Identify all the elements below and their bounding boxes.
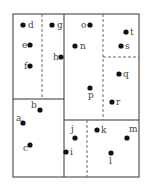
- point-m: m: [124, 124, 138, 141]
- point-marker: [116, 71, 121, 76]
- partition-diagram: abcdefghijklmnopqrst: [0, 0, 152, 193]
- point-s: s: [118, 41, 130, 51]
- point-d: d: [20, 20, 34, 30]
- point-n: n: [72, 41, 86, 51]
- point-label: e: [22, 40, 27, 50]
- point-label: s: [125, 41, 130, 51]
- point-marker: [87, 22, 92, 27]
- point-label: q: [123, 69, 129, 79]
- point-label: h: [53, 52, 59, 62]
- point-b: b: [31, 100, 43, 113]
- point-r: r: [109, 97, 121, 107]
- point-o: o: [81, 20, 93, 30]
- point-marker: [94, 127, 99, 132]
- point-label: n: [80, 41, 86, 51]
- point-q: q: [116, 69, 129, 79]
- point-label: r: [116, 97, 121, 107]
- point-label: c: [23, 143, 28, 153]
- point-label: l: [109, 156, 112, 166]
- point-marker: [123, 29, 128, 34]
- point-marker: [20, 22, 25, 27]
- point-label: j: [70, 124, 74, 134]
- point-a: a: [16, 113, 26, 126]
- point-label: a: [16, 113, 22, 123]
- solid-partition-lines: [13, 14, 139, 177]
- point-g: g: [49, 20, 63, 30]
- point-label: g: [57, 20, 63, 30]
- point-marker: [27, 142, 32, 147]
- point-label: d: [28, 20, 34, 30]
- point-k: k: [94, 125, 107, 135]
- point-marker: [27, 42, 32, 47]
- point-label: o: [81, 20, 86, 30]
- point-marker: [109, 99, 114, 104]
- point-e: e: [22, 40, 33, 50]
- point-t: t: [123, 27, 134, 37]
- data-points: abcdefghijklmnopqrst: [16, 20, 138, 166]
- point-label: t: [130, 27, 134, 37]
- point-marker: [72, 43, 77, 48]
- point-marker: [37, 107, 42, 112]
- point-h: h: [53, 52, 64, 62]
- point-f: f: [24, 61, 33, 71]
- point-c: c: [23, 142, 33, 153]
- point-label: p: [88, 90, 94, 100]
- point-marker: [63, 149, 68, 154]
- point-marker: [108, 150, 113, 155]
- point-marker: [27, 63, 32, 68]
- point-i: i: [63, 147, 73, 157]
- point-marker: [72, 135, 77, 140]
- outer-boundary: [13, 14, 139, 177]
- point-marker: [124, 135, 129, 140]
- point-marker: [49, 22, 54, 27]
- point-j: j: [70, 124, 78, 141]
- point-marker: [118, 43, 123, 48]
- point-label: i: [70, 147, 73, 157]
- point-label: b: [31, 100, 37, 110]
- point-p: p: [87, 85, 94, 100]
- point-label: f: [24, 61, 28, 71]
- point-label: k: [101, 125, 107, 135]
- point-l: l: [108, 150, 113, 166]
- point-marker: [58, 54, 63, 59]
- point-label: m: [129, 124, 138, 134]
